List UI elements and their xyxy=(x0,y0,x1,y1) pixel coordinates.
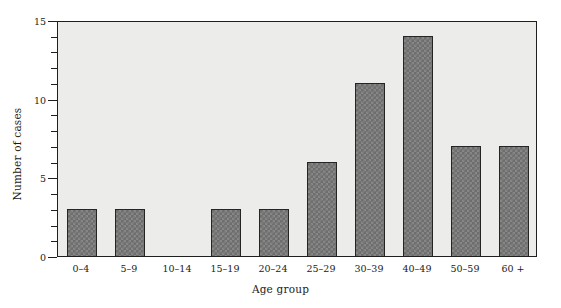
bar xyxy=(67,209,97,256)
bar xyxy=(355,83,385,256)
plot-area xyxy=(57,21,537,257)
bar xyxy=(211,209,241,256)
x-axis-title: Age group xyxy=(0,283,561,295)
x-axis-tick-label: 25–29 xyxy=(307,263,336,274)
y-axis: 051015 xyxy=(0,0,57,308)
y-axis-tick-label: 0 xyxy=(40,252,46,263)
bar xyxy=(115,209,145,256)
x-axis-tick-label: 5–9 xyxy=(121,263,138,274)
y-axis-major-tick xyxy=(48,100,57,101)
x-axis-tick-label: 60 + xyxy=(501,263,524,274)
y-axis-tick-label: 15 xyxy=(34,16,46,27)
x-axis-tick-label: 15–19 xyxy=(211,263,240,274)
y-axis-major-tick xyxy=(48,257,57,258)
bar xyxy=(499,146,529,256)
y-axis-tick-label: 5 xyxy=(40,173,46,184)
y-axis-major-tick xyxy=(48,178,57,179)
y-axis-tick-label: 10 xyxy=(34,94,46,105)
bar-chart-figure: Number of cases 051015 Age group 0–45–91… xyxy=(0,0,561,308)
bar xyxy=(451,146,481,256)
bar xyxy=(403,36,433,256)
bar xyxy=(259,209,289,256)
x-axis-tick-label: 20–24 xyxy=(259,263,288,274)
x-axis-tick-label: 40–49 xyxy=(403,263,432,274)
x-axis-tick-label: 50–59 xyxy=(451,263,480,274)
x-axis-tick-label: 0–4 xyxy=(73,263,90,274)
y-axis-major-tick xyxy=(48,21,57,22)
bar xyxy=(307,162,337,256)
x-axis-tick-label: 30–39 xyxy=(355,263,384,274)
x-axis-tick-label: 10–14 xyxy=(163,263,192,274)
